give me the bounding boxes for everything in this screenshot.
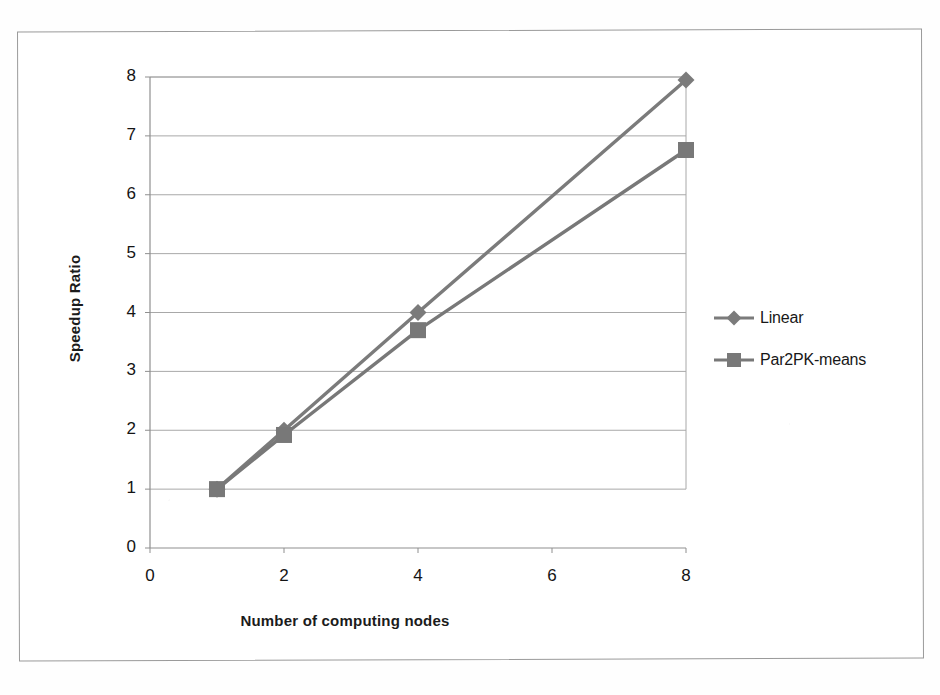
x-tick-label-0: 0 (133, 566, 167, 586)
y-tick-label-7: 7 (102, 125, 136, 145)
marker-par2pk-means-x1 (209, 481, 225, 497)
figure-root: 012345678 02468 Number of computing node… (0, 0, 940, 695)
y-tick-label-4: 4 (102, 302, 136, 322)
y-tick-label-1: 1 (102, 478, 136, 498)
diamond-marker (712, 308, 756, 328)
x-tick-label-4: 4 (401, 566, 435, 586)
x-tick-label-6: 6 (535, 566, 569, 586)
y-tick-label-6: 6 (102, 184, 136, 204)
speedup-ratio-line-chart (0, 0, 940, 695)
marker-par2pk-means-x4 (410, 322, 426, 338)
y-tick-label-0: 0 (102, 537, 136, 557)
marker-par2pk-means-x2 (276, 427, 292, 443)
y-axis-title: Speedup Ratio (66, 229, 83, 389)
gridline-group (150, 77, 686, 489)
y-tick-label-8: 8 (102, 66, 136, 86)
legend-item-linear[interactable]: Linear (712, 308, 803, 328)
legend-label-linear: Linear (760, 309, 803, 327)
y-tick-label-3: 3 (102, 360, 136, 380)
legend-label-par2pk-means: Par2PK-means (760, 351, 866, 369)
legend-item-par2pk-means[interactable]: Par2PK-means (712, 350, 866, 370)
chart-canvas: 012345678 02468 Number of computing node… (0, 0, 940, 695)
y-tick-label-5: 5 (102, 243, 136, 263)
marker-par2pk-means-x8 (678, 142, 694, 158)
y-tick-label-2: 2 (102, 419, 136, 439)
square-marker (712, 350, 756, 370)
x-tick-label-2: 2 (267, 566, 301, 586)
x-axis-title: Number of computing nodes (0, 612, 690, 629)
x-tick-label-8: 8 (669, 566, 703, 586)
